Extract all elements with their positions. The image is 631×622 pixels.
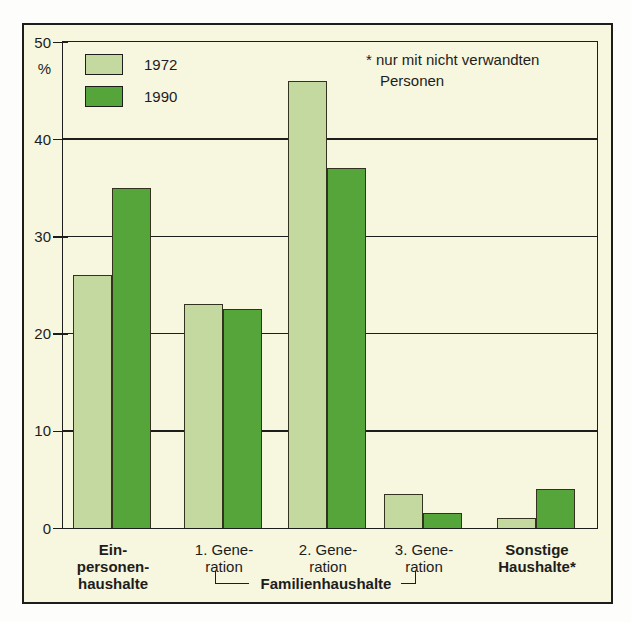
legend-entry-1990: 1990 — [85, 86, 177, 107]
y-axis-unit-label: % — [24, 60, 51, 77]
bar-1972-group2 — [184, 304, 223, 528]
y-tick-50 — [53, 42, 68, 44]
y-tick-0 — [53, 528, 68, 530]
bar-1990-group4 — [423, 513, 462, 528]
bar-1972-group5 — [497, 518, 536, 528]
legend-swatch-1972 — [85, 54, 123, 75]
footnote-line-1: * nur mit nicht verwandten — [366, 49, 539, 70]
y-tick-label-20: 20 — [24, 325, 51, 343]
footnote-annotation: * nur mit nicht verwandtenPersonen — [366, 49, 539, 91]
family-bracket-label: Familienhaushalte — [246, 575, 406, 592]
bar-1972-group1 — [73, 275, 112, 528]
figure: 19721990 * nur mit nicht verwandtenPerso… — [0, 0, 631, 622]
legend-entry-1972: 1972 — [85, 54, 177, 75]
category-label-group5: SonstigeHaushalte* — [462, 541, 612, 575]
y-tick-label-30: 30 — [24, 228, 51, 246]
bar-1972-group4 — [384, 494, 423, 528]
legend-swatch-1990 — [85, 86, 123, 107]
bar-1990-group2 — [223, 309, 262, 528]
y-tick-label-40: 40 — [24, 131, 51, 149]
plot-area: 19721990 * nur mit nicht verwandtenPerso… — [62, 41, 598, 529]
chart-frame: 19721990 * nur mit nicht verwandtenPerso… — [22, 23, 613, 604]
y-tick-label-50: 50 — [24, 34, 51, 52]
bar-1990-group5 — [536, 489, 575, 528]
footnote-line-2: Personen — [366, 70, 539, 91]
legend-label-1990: 1990 — [144, 88, 177, 105]
y-tick-label-0: 0 — [24, 520, 51, 538]
legend-label-1972: 1972 — [144, 56, 177, 73]
bar-1990-group3 — [327, 168, 366, 528]
gridline-40 — [63, 138, 597, 140]
y-tick-label-10: 10 — [24, 422, 51, 440]
bar-1990-group1 — [112, 188, 151, 528]
legend: 19721990 — [85, 54, 177, 107]
bar-1972-group3 — [288, 81, 327, 528]
